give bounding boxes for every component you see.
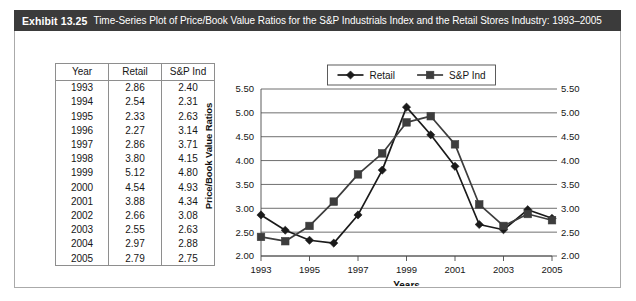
x-axis-title: Years [393, 280, 420, 286]
data-point-marker [378, 150, 386, 158]
cell-year: 1996 [56, 123, 109, 137]
cell-year: 1993 [56, 80, 109, 95]
cell-year: 1995 [56, 109, 109, 123]
y-tick-label-left: 2.50 [236, 227, 255, 238]
table-row: 19972.863.71 [56, 138, 215, 152]
data-point-marker [354, 171, 362, 179]
exhibit-number: Exhibit 13.25 [22, 15, 88, 27]
cell-year: 1998 [56, 152, 109, 166]
x-tick-label: 1999 [396, 264, 417, 275]
x-tick-label: 1997 [347, 264, 368, 275]
cell-retail: 5.12 [109, 166, 162, 180]
cell-retail: 2.54 [109, 95, 162, 109]
data-point-marker [475, 201, 483, 209]
data-point-marker [475, 220, 483, 228]
y-tick-label-right: 2.00 [561, 250, 580, 261]
x-tick-label: 1993 [250, 264, 271, 275]
table-header-row: Year Retail S&P Ind [56, 64, 215, 81]
cell-retail: 3.88 [109, 194, 162, 208]
data-point-marker [330, 198, 338, 206]
data-point-marker [281, 226, 289, 234]
table-row: 20032.552.63 [56, 223, 215, 237]
time-series-chart: Price/Book Value Ratios 2.002.002.502.50… [207, 61, 607, 286]
cell-year: 2005 [56, 251, 109, 266]
table-row: 20013.884.34 [56, 194, 215, 208]
column-header-retail: Retail [109, 64, 162, 81]
y-tick-label-right: 2.50 [561, 227, 580, 238]
y-tick-label-left: 2.00 [236, 250, 255, 261]
cell-retail: 2.86 [109, 80, 162, 95]
data-point-marker [257, 211, 265, 219]
cell-year: 1999 [56, 166, 109, 180]
cell-year: 1997 [56, 138, 109, 152]
cell-year: 2002 [56, 209, 109, 223]
data-point-marker [378, 166, 386, 174]
cell-retail: 3.80 [109, 152, 162, 166]
cell-year: 1994 [56, 95, 109, 109]
y-tick-label-left: 4.50 [236, 131, 255, 142]
table-row: 20042.972.88 [56, 237, 215, 251]
data-point-marker [548, 216, 556, 224]
x-tick-label: 2003 [493, 264, 514, 275]
chart-plot-svg: 2.002.002.502.503.003.003.503.504.004.00… [207, 61, 607, 286]
x-tick-label: 2005 [541, 264, 562, 275]
table-row: 19942.542.31 [56, 95, 215, 109]
x-tick-label: 2001 [444, 264, 465, 275]
cell-year: 2000 [56, 180, 109, 194]
y-tick-label-right: 4.50 [561, 131, 580, 142]
cell-retail: 2.97 [109, 237, 162, 251]
data-point-marker [427, 112, 435, 120]
exhibit-body: Year Retail S&P Ind 19932.862.40 19942.5… [14, 31, 621, 288]
cell-retail: 2.55 [109, 223, 162, 237]
exhibit-title-bar: Exhibit 13.25 Time-Series Plot of Price/… [14, 10, 621, 31]
exhibit-card: Exhibit 13.25 Time-Series Plot of Price/… [14, 10, 621, 288]
table-row: 19932.862.40 [56, 80, 215, 95]
table-row: 20022.663.08 [56, 209, 215, 223]
y-tick-label-right: 4.00 [561, 155, 580, 166]
exhibit-caption: Time-Series Plot of Price/Book Value Rat… [94, 15, 602, 26]
cell-retail: 4.54 [109, 180, 162, 194]
cell-retail: 2.66 [109, 209, 162, 223]
y-tick-label-right: 5.00 [561, 107, 580, 118]
legend-label: S&P Ind [449, 70, 486, 81]
y-tick-label-left: 3.50 [236, 179, 255, 190]
x-tick-label: 1995 [299, 264, 320, 275]
y-tick-label-left: 5.00 [236, 107, 255, 118]
price-book-ratio-table: Year Retail S&P Ind 19932.862.40 19942.5… [55, 63, 215, 266]
table-body: 19932.862.40 19942.542.31 19952.332.63 1… [56, 80, 215, 266]
column-header-year: Year [56, 64, 109, 81]
y-tick-label-right: 3.00 [561, 203, 580, 214]
table-row: 19995.124.80 [56, 166, 215, 180]
data-point-marker [524, 210, 532, 218]
y-tick-label-right: 3.50 [561, 179, 580, 190]
cell-year: 2004 [56, 237, 109, 251]
table-row: 19983.804.15 [56, 152, 215, 166]
data-point-marker [451, 141, 459, 149]
data-point-marker [403, 119, 411, 127]
data-point-marker [281, 237, 289, 245]
data-point-marker [306, 222, 314, 230]
cell-retail: 2.27 [109, 123, 162, 137]
y-tick-label-right: 5.50 [561, 83, 580, 94]
table-row: 19952.332.63 [56, 109, 215, 123]
cell-retail: 2.33 [109, 109, 162, 123]
cell-retail: 2.86 [109, 138, 162, 152]
table-row: 20004.544.93 [56, 180, 215, 194]
data-point-marker [257, 233, 265, 241]
legend-label: Retail [370, 70, 396, 81]
table-row: 19962.273.14 [56, 123, 215, 137]
data-point-marker [500, 222, 508, 230]
cell-year: 2001 [56, 194, 109, 208]
cell-retail: 2.79 [109, 251, 162, 266]
y-tick-label-left: 5.50 [236, 83, 255, 94]
table-row: 20052.792.75 [56, 251, 215, 266]
cell-year: 2003 [56, 223, 109, 237]
y-tick-label-left: 3.00 [236, 203, 255, 214]
y-tick-label-left: 4.00 [236, 155, 255, 166]
data-point-marker [305, 236, 313, 244]
